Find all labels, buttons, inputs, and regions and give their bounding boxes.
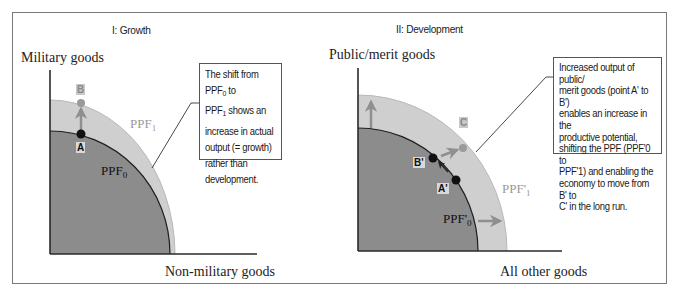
growth-panel-title: I: Growth: [112, 24, 151, 36]
development-callout-line1: Increased output of public/: [559, 61, 634, 85]
growth-y-axis-label: Military goods: [21, 50, 104, 66]
growth-callout-leader: [152, 103, 199, 168]
growth-callout-line5: rather than: [205, 157, 247, 169]
point-b: [77, 99, 85, 107]
point-c-label: C: [459, 117, 468, 128]
point-a: [77, 130, 86, 139]
ppf-prime1-label-name: PPF': [502, 181, 526, 196]
ppf-prime0-label: PPF'0: [443, 211, 472, 228]
point-a-label: A: [76, 142, 85, 153]
development-callout-leader: [476, 77, 553, 152]
development-callout-line5: shifting the PPF (PPF'0 to: [559, 142, 650, 166]
development-callout: Increased output of public/ merit goods …: [553, 57, 662, 154]
growth-callout-line6: development.: [205, 173, 258, 185]
growth-callout-line3: increase in actual: [205, 125, 273, 137]
ppf1-label: PPF1: [130, 116, 156, 133]
ppf-prime0-label-sub: 0: [467, 218, 472, 228]
growth-callout-line4: output (= growth): [205, 141, 272, 153]
development-callout-line6: PPF'1) and enabling the: [559, 165, 653, 177]
ppf0-label-sub: 0: [123, 170, 128, 180]
development-callout-line7: economy to move from B' to: [559, 177, 649, 201]
ppf0-label: PPF0: [101, 163, 127, 180]
point-a-prime-label: A': [437, 183, 449, 194]
growth-x-axis-label: Non-military goods: [165, 264, 275, 280]
callout-text: shows an: [226, 104, 266, 116]
ppf-prime0-label-name: PPF': [443, 211, 467, 226]
ppf1-label-sub: 1: [152, 123, 157, 133]
growth-callout: The shift from PPF0 to PPF1 shows an inc…: [199, 63, 282, 160]
ppf0-label-name: PPF: [101, 163, 123, 178]
ppf-prime1-label: PPF'1: [502, 181, 531, 198]
point-b-label: B: [76, 84, 85, 95]
ppf0-region: [50, 131, 170, 254]
ppf1-label-name: PPF: [130, 116, 152, 131]
development-callout-line4: productive potential,: [559, 131, 637, 143]
point-c: [459, 144, 467, 152]
point-b-prime-label: B': [413, 157, 425, 168]
growth-callout-line2: PPF1 shows an: [205, 104, 266, 116]
development-callout-line2: merit goods (point A' to B'): [559, 84, 648, 108]
callout-text: to: [226, 84, 236, 96]
growth-callout-line1: The shift from PPF0 to: [205, 68, 259, 96]
point-a-prime: [452, 176, 461, 185]
development-callout-line8: C' in the long run.: [559, 200, 627, 212]
development-callout-line3: enables an increase in the: [559, 107, 647, 131]
ppf-prime1-label-sub: 1: [526, 188, 531, 198]
development-x-axis-label: All other goods: [500, 264, 587, 280]
development-y-axis-label: Public/merit goods: [329, 47, 435, 63]
callout-text: PPF: [205, 104, 222, 116]
point-b-prime: [429, 154, 438, 163]
development-panel-title: II: Development: [396, 23, 463, 35]
